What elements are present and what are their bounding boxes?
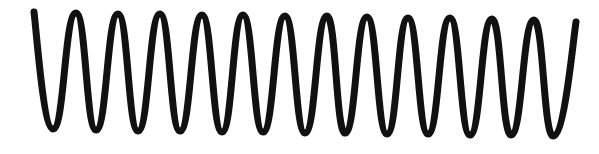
wave-stroke xyxy=(34,12,576,136)
sine-wave-drawing xyxy=(0,0,599,154)
wave-figure xyxy=(0,0,599,154)
